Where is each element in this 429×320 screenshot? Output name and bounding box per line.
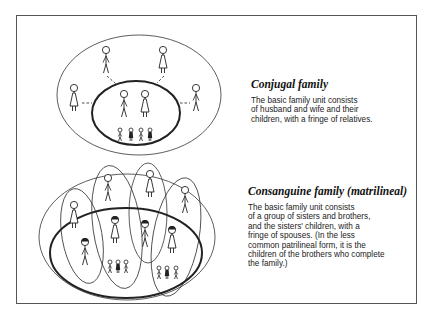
spouse-figure <box>146 170 154 197</box>
description-line: of husband and wife and their <box>251 105 373 114</box>
consanguine-diagram <box>39 162 215 300</box>
child-figure <box>165 266 169 279</box>
spouse-figure <box>70 201 78 228</box>
pair-ellipse-4 <box>143 174 209 300</box>
conjugal-description: The basic family unit consists of husban… <box>251 96 373 124</box>
consanguine-description: The basic family unit consists of a grou… <box>248 203 407 269</box>
relative-man-top-left <box>102 46 109 73</box>
relative-man-right <box>192 84 199 111</box>
child-figure <box>124 260 128 273</box>
sister-figure <box>168 226 176 253</box>
wife-figure <box>141 90 149 117</box>
relative-woman-top-right <box>159 46 167 73</box>
description-line: children of the brothers who complete <box>248 250 407 259</box>
child-figure <box>108 260 112 273</box>
conjugal-diagram <box>57 35 221 155</box>
child-figure <box>148 128 152 141</box>
pair-ellipse-1 <box>54 185 110 286</box>
husband-figure <box>120 90 127 117</box>
description-line: The basic family unit consists <box>248 203 407 212</box>
description-line: the family.) <box>248 259 407 268</box>
child-figure <box>174 266 178 279</box>
sister-figure <box>111 216 119 243</box>
description-line: children, with a fringe of relatives. <box>251 115 373 124</box>
core-family-ellipse <box>92 81 180 145</box>
child-figure <box>129 128 133 141</box>
brother-figure <box>81 238 88 265</box>
description-line: fringe of spouses. (In the less <box>248 231 407 240</box>
description-line: of a group of sisters and brothers, <box>248 212 407 221</box>
spouse-figure <box>104 174 111 201</box>
child-figure <box>118 128 122 141</box>
relative-woman-left <box>70 84 78 111</box>
description-line: and the sisters' children, with a <box>248 222 407 231</box>
spouse-figure <box>181 186 188 213</box>
conjugal-title: Conjugal family <box>251 78 373 90</box>
consanguine-title: Consanguine family (matrilineal) <box>248 185 407 197</box>
family-diagram <box>0 0 429 320</box>
description-line: common patrilineal form, it is the <box>248 241 407 250</box>
consanguine-caption: Consanguine family (matrilineal) The bas… <box>248 185 407 269</box>
conjugal-caption: Conjugal family The basic family unit co… <box>251 78 373 124</box>
description-line: The basic family unit consists <box>251 96 373 105</box>
child-figure <box>157 266 161 279</box>
child-figure <box>116 260 120 273</box>
child-figure <box>139 128 143 141</box>
